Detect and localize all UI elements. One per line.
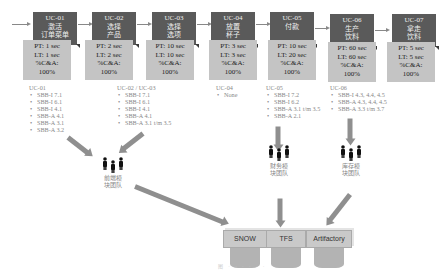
ca-value: 100% — [328, 70, 376, 79]
metric-box-uc03: PT: 10 sec LT: 10 sec %C&A: 100% — [146, 40, 194, 80]
requirements-list-uc06: UC-06 SBB-I 4.3, 4.4, 4.5 SBB-A 4.3, 4.4… — [330, 84, 387, 112]
figure-caption: 图 · · · · · · — [218, 262, 267, 269]
system-tfs: TFS — [266, 230, 306, 268]
list-title: UC-01 — [29, 84, 64, 91]
list-item: SBB-I 4.1 — [125, 105, 171, 112]
flow-arrow — [375, 30, 387, 31]
requirements-list-uc05: UC-05 SBB-I 7.2 SBB-I 6.2 SBB-A 3.1 t/m … — [266, 84, 320, 119]
step-id: UC-04 — [211, 14, 255, 23]
lt-value: LT: 1 sec — [23, 51, 71, 60]
flow-arrow — [78, 24, 90, 25]
list-item: SBB-I 7.2 — [274, 91, 320, 98]
step-name: 付款 — [270, 23, 314, 32]
team-label: 库存模块团队 — [341, 163, 361, 177]
ca-label: %C&A: — [387, 61, 435, 70]
ca-label: %C&A: — [85, 59, 133, 68]
lt-value: LT: 20 sec — [268, 51, 316, 60]
step-id: UC-05 — [270, 14, 314, 23]
team-inventory: 库存模块团队 — [334, 145, 368, 177]
step-name: 拿走 饮料 — [392, 25, 436, 42]
list-item: SBB-A 4.1 — [37, 112, 64, 119]
pt-value: PT: 5 sec — [387, 44, 435, 53]
list-item: SBB-I 6.1 — [37, 98, 64, 105]
flow-arrow — [197, 24, 209, 25]
step-name: 激活 订单菜单 — [33, 23, 77, 40]
lt-value: LT: 2 sec — [85, 51, 133, 60]
lt-value: LT: 5 sec — [387, 53, 435, 62]
team-label: 前端模块团队 — [103, 175, 123, 189]
system-artifactory: Artifactory — [306, 230, 352, 268]
list-item: SBB-I 4.1 — [37, 105, 64, 112]
step-id: UC-07 — [392, 16, 436, 25]
metric-box-uc01: PT: 1 sec LT: 1 sec %C&A: 100% — [23, 40, 71, 80]
system-label: TFS — [266, 230, 306, 248]
list-item: SBB-I 7.1 — [37, 91, 64, 98]
lt-value: LT: 3 sec — [209, 51, 257, 60]
arrow-uc06-to-inventory — [348, 119, 353, 141]
requirements-list-uc04: UC-04 None — [216, 84, 237, 98]
step-id: UC-06 — [330, 16, 374, 25]
step-name: 选择 选项 — [152, 23, 196, 40]
list-item: SBB-I 6.1 — [125, 98, 171, 105]
list-title: UC-05 — [266, 84, 320, 91]
list-item: SBB-A 2.1 — [274, 112, 320, 119]
ca-value: 100% — [23, 68, 71, 77]
list-item: SBB-A 3.1 t/m 3.5 — [125, 119, 171, 126]
list-item: SBB-I 7.1 — [125, 91, 171, 98]
list-item: SBB-A 3.3 t/m 3.7 — [338, 105, 387, 112]
pt-value: PT: 10 sec — [146, 42, 194, 51]
list-item: None — [224, 91, 237, 98]
team-finance: 财务模块团队 — [262, 145, 296, 177]
ca-label: %C&A: — [268, 59, 316, 68]
flow-arrow — [256, 24, 268, 25]
pt-value: PT: 10 sec — [268, 42, 316, 51]
arrow-frontend-to-snow — [134, 184, 225, 225]
entry-arrow — [12, 24, 28, 25]
flow-arrow — [137, 24, 149, 25]
metric-box-uc02: PT: 2 sec LT: 2 sec %C&A: 100% — [85, 40, 133, 80]
ca-value: 100% — [146, 68, 194, 77]
ca-label: %C&A: — [23, 59, 71, 68]
ca-label: %C&A: — [146, 59, 194, 68]
list-title: UC-06 — [330, 84, 387, 91]
system-label: SNOW — [223, 230, 267, 248]
database-icon — [314, 248, 344, 268]
metric-box-uc07: PT: 5 sec LT: 5 sec %C&A: 100% — [387, 42, 435, 82]
step-id: UC-03 — [152, 14, 196, 23]
list-item: SBB-I 4.3, 4.4, 4.5 — [338, 91, 387, 98]
requirements-list-uc01: UC-01 SBB-I 7.1 SBB-I 6.1 SBB-I 4.1 SBB-… — [29, 84, 64, 133]
arrow-finance-to-tfs — [278, 199, 283, 223]
system-label: Artifactory — [306, 230, 352, 248]
step-id: UC-01 — [33, 14, 77, 23]
list-item: SBB-A 4.1 — [125, 112, 171, 119]
pt-value: PT: 1 sec — [23, 42, 71, 51]
ca-label: %C&A: — [209, 59, 257, 68]
ca-value: 100% — [85, 68, 133, 77]
ca-label: %C&A: — [328, 61, 376, 70]
people-icon — [339, 145, 363, 162]
list-item: SBB-A 3.1 — [37, 119, 64, 126]
step-name: 选择 产品 — [92, 23, 136, 40]
lt-value: LT: 10 sec — [146, 51, 194, 60]
arrow-uc01-to-frontend — [66, 136, 90, 156]
list-title: UC-04 — [216, 84, 237, 91]
ca-value: 100% — [268, 68, 316, 77]
arrow-uc02-to-frontend — [121, 132, 145, 152]
flow-arrow — [315, 28, 327, 29]
team-label: 财务模块团队 — [269, 163, 289, 177]
metric-box-uc06: PT: 60 sec LT: 60 sec %C&A: 100% — [328, 42, 376, 82]
arrow-inventory-to-artifactory — [327, 193, 352, 223]
lt-value: LT: 60 sec — [328, 53, 376, 62]
team-frontend: 前端模块团队 — [96, 157, 130, 189]
ca-value: 100% — [387, 70, 435, 79]
database-icon — [271, 248, 301, 268]
list-item: SBB-A 3.2 — [37, 126, 64, 133]
step-id: UC-02 — [92, 14, 136, 23]
requirements-list-uc02-uc03: UC-02 / UC-03 SBB-I 7.1 SBB-I 6.1 SBB-I … — [117, 84, 171, 126]
metric-box-uc05: PT: 10 sec LT: 20 sec %C&A: 100% — [268, 40, 316, 80]
arrow-uc05-to-finance — [276, 127, 281, 147]
metric-box-uc04: PT: 3 sec LT: 3 sec %C&A: 100% — [209, 40, 257, 80]
pt-value: PT: 3 sec — [209, 42, 257, 51]
list-item: SBB-A 3.1 t/m 3.5 — [274, 105, 320, 112]
step-name: 放置 杯子 — [211, 23, 255, 40]
